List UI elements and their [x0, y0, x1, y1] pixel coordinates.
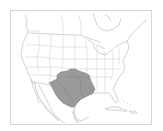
coast-shadow	[73, 107, 79, 123]
range-map: Species range map - North America	[10, 10, 152, 125]
north-america-map	[11, 11, 152, 125]
coast-shadow-west	[41, 101, 59, 121]
country-borders	[21, 13, 147, 123]
